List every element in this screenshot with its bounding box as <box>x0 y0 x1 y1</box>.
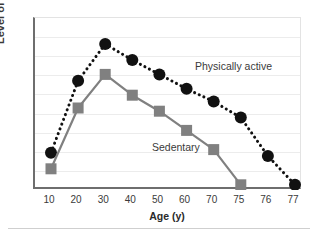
chart-figure: Level of function Physically active Sede… <box>0 0 318 237</box>
data-point-sedentary <box>235 179 246 190</box>
x-tick-label: 30 <box>98 194 109 205</box>
data-point-physically-active <box>181 83 193 95</box>
data-point-sedentary <box>154 106 165 117</box>
x-tick-label: 60 <box>179 194 190 205</box>
x-tick-label: 70 <box>206 194 217 205</box>
series-line-sedentary <box>51 74 241 184</box>
data-point-sedentary <box>100 69 111 80</box>
x-tick-label: 76 <box>260 194 271 205</box>
data-point-physically-active <box>235 112 247 124</box>
data-point-sedentary <box>127 90 138 101</box>
x-axis-tick-labels: 10203040506070757677 <box>33 194 301 210</box>
x-tick-label: 77 <box>287 194 298 205</box>
x-tick-label: 10 <box>43 194 54 205</box>
data-point-sedentary <box>208 144 219 155</box>
plot-area: Physically active Sedentary <box>33 17 301 189</box>
series-label-sedentary: Sedentary <box>152 141 200 153</box>
data-point-physically-active <box>208 96 220 108</box>
data-point-sedentary <box>181 125 192 136</box>
x-tick-label: 50 <box>152 194 163 205</box>
series-plot <box>35 18 303 190</box>
data-point-physically-active <box>153 68 165 80</box>
figure-bottom-rule <box>8 228 310 229</box>
y-axis-title: Level of function <box>0 0 6 60</box>
data-point-physically-active <box>126 54 138 66</box>
data-point-physically-active <box>262 150 274 162</box>
x-axis-title: Age (y) <box>33 210 301 222</box>
data-point-physically-active <box>72 75 84 87</box>
data-point-sedentary <box>46 163 57 174</box>
x-tick-label: 75 <box>233 194 244 205</box>
data-point-physically-active <box>99 38 111 50</box>
series-label-physically-active: Physically active <box>195 60 272 72</box>
data-point-sedentary <box>73 103 84 114</box>
x-tick-label: 40 <box>125 194 136 205</box>
x-tick-label: 20 <box>71 194 82 205</box>
